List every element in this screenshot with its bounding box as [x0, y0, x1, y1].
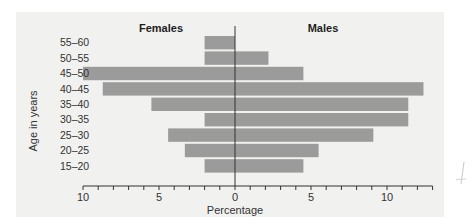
bar-females-7 — [185, 144, 235, 157]
x-tick-label: 10 — [77, 191, 89, 203]
bar-males-4 — [235, 98, 408, 111]
category-label: 15–20 — [60, 160, 89, 172]
category-label: 50–55 — [60, 52, 89, 64]
chart-panel: Females Males Age in years Percentage 55… — [16, 12, 444, 217]
males-title: Males — [308, 22, 339, 34]
x-tick-label: 10 — [381, 191, 393, 203]
category-label: 55–60 — [60, 36, 89, 48]
bar-females-3 — [103, 82, 235, 95]
bar-females-2 — [83, 67, 235, 80]
bar-males-6 — [235, 128, 373, 141]
bar-males-2 — [235, 67, 303, 80]
females-title: Females — [139, 22, 183, 34]
bars-group — [83, 36, 423, 173]
bar-females-8 — [205, 159, 235, 172]
bar-females-0 — [205, 36, 235, 49]
x-axis: 1050510 — [77, 186, 433, 203]
bar-males-1 — [235, 51, 268, 64]
bar-males-8 — [235, 159, 303, 172]
x-tick-label: 5 — [156, 191, 162, 203]
y-axis-title: Age in years — [27, 90, 39, 152]
category-label: 20–25 — [60, 144, 89, 156]
category-label: 30–35 — [60, 113, 89, 125]
category-label: 45–50 — [60, 67, 89, 79]
x-tick-label: 5 — [308, 191, 314, 203]
category-label: 35–40 — [60, 98, 89, 110]
bar-females-4 — [151, 98, 235, 111]
bar-males-7 — [235, 144, 319, 157]
bar-males-5 — [235, 113, 408, 126]
x-axis-title: Percentage — [207, 204, 263, 216]
x-tick-label: 0 — [232, 191, 238, 203]
category-label: 25–30 — [60, 129, 89, 141]
bar-females-6 — [168, 128, 235, 141]
pen-mark-decoration — [455, 160, 467, 188]
category-label: 40–45 — [60, 83, 89, 95]
population-pyramid-chart: Females Males Age in years Percentage 55… — [16, 12, 444, 217]
bar-females-1 — [205, 51, 235, 64]
category-labels: 55–6050–5545–5040–4535–4030–3525–3020–25… — [60, 36, 89, 171]
bar-males-3 — [235, 82, 423, 95]
bar-females-5 — [205, 113, 235, 126]
